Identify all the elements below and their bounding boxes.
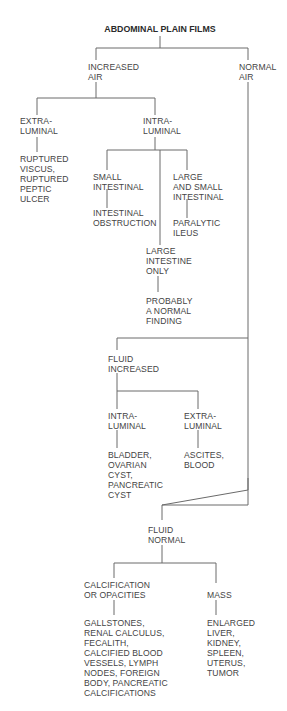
node-line: CALCIFICATIONS [84,688,168,698]
node-intestinal-obstruction: INTESTINAL OBSTRUCTION [93,208,157,228]
diagram-title: ABDOMINAL PLAIN FILMS [0,24,287,34]
node-line: PEPTIC [20,184,69,194]
node-line: BLOOD [184,460,224,470]
node-line: ONLY [146,266,192,276]
node-mass: MASS [207,590,232,600]
node-line: VESSELS, LYMPH [84,658,168,668]
node-ruptured-viscus: RUPTURED VISCUS, RUPTURED PEPTIC ULCER [20,154,69,204]
node-line: OBSTRUCTION [93,218,157,228]
node-line: UTERUS, [207,658,255,668]
node-line: LUMINAL [20,126,58,136]
node-line: NORMAL [239,62,276,72]
node-line: PROBABLY [146,296,193,306]
node-line: INTESTINAL [93,208,157,218]
node-line: FLUID [108,354,159,364]
node-line: A NORMAL [146,306,193,316]
node-line: CYST, [108,470,163,480]
node-line: OR OPACITIES [84,590,150,600]
node-line: LARGE [173,172,224,182]
node-line: PARALYTIC [173,218,220,228]
node-ascites-blood: ASCITES, BLOOD [184,450,224,470]
node-probably-normal: PROBABLY A NORMAL FINDING [146,296,193,326]
node-line: ILEUS [173,228,220,238]
node-line: LUMINAL [108,421,146,431]
node-line: FECALITH, [84,638,168,648]
node-large-and-small-intestinal: LARGE AND SMALL INTESTINAL [173,172,224,202]
node-fluid-intraluminal: INTRA- LUMINAL [108,411,146,431]
node-line: EXTRA- [184,411,222,421]
node-air-extraluminal: EXTRA- LUMINAL [20,116,58,136]
node-line: TUMOR [207,668,255,678]
node-line: FLUID [148,525,185,535]
node-line: GALLSTONES, [84,618,168,628]
node-line: INTRA- [143,116,181,126]
node-line: FINDING [146,316,193,326]
node-line: ENLARGED [207,618,255,628]
node-line: RENAL CALCULUS, [84,628,168,638]
node-bladder-cyst: BLADDER, OVARIAN CYST, PANCREATIC CYST [108,450,163,500]
node-line: LUMINAL [143,126,181,136]
node-line: OVARIAN [108,460,163,470]
node-line: AIR [88,72,139,82]
node-gallstones-list: GALLSTONES, RENAL CALCULUS, FECALITH, CA… [84,618,168,698]
node-line: INTRA- [108,411,146,421]
node-line: PANCREATIC [108,480,163,490]
node-line: ULCER [20,194,69,204]
node-line: NODES, FOREIGN [84,668,168,678]
node-line: ASCITES, [184,450,224,460]
node-line: LIVER, [207,628,255,638]
node-line: SMALL [93,172,144,182]
node-increased-air: INCREASED AIR [88,62,139,82]
node-line: LUMINAL [184,421,222,431]
node-line: NORMAL [148,535,185,545]
node-line: INCREASED [88,62,139,72]
node-line: AND SMALL [173,182,224,192]
node-small-intestinal: SMALL INTESTINAL [93,172,144,192]
node-line: CALCIFIED BLOOD [84,648,168,658]
node-line: BLADDER, [108,450,163,460]
node-calcification-opacities: CALCIFICATION OR OPACITIES [84,580,150,600]
node-normal-air: NORMAL AIR [239,62,276,82]
node-line: AIR [239,72,276,82]
node-line: EXTRA- [20,116,58,126]
node-line: INTESTINE [146,256,192,266]
node-fluid-extraluminal: EXTRA- LUMINAL [184,411,222,431]
node-fluid-increased: FLUID INCREASED [108,354,159,374]
node-line: CALCIFICATION [84,580,150,590]
node-paralytic-ileus: PARALYTIC ILEUS [173,218,220,238]
node-line: RUPTURED [20,154,69,164]
node-line: VISCUS, [20,164,69,174]
node-line: LARGE [146,246,192,256]
node-large-intestine-only: LARGE INTESTINE ONLY [146,246,192,276]
node-line: RUPTURED [20,174,69,184]
node-line: INTESTINAL [173,192,224,202]
node-line: KIDNEY, [207,638,255,648]
node-line: BODY, PANCREATIC [84,678,168,688]
node-line: INTESTINAL [93,182,144,192]
node-enlarged-organs: ENLARGED LIVER, KIDNEY, SPLEEN, UTERUS, … [207,618,255,678]
node-air-intraluminal: INTRA- LUMINAL [143,116,181,136]
node-line: INCREASED [108,364,159,374]
node-fluid-normal: FLUID NORMAL [148,525,185,545]
node-line: CYST [108,490,163,500]
node-line: SPLEEN, [207,648,255,658]
node-line: MASS [207,590,232,600]
